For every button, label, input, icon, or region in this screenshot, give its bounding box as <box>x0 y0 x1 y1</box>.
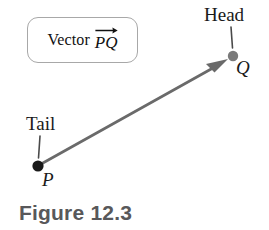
callout-vector-name: PQ <box>95 28 118 53</box>
head-label: Head <box>204 5 244 24</box>
callout-word-label: Vector <box>47 31 89 49</box>
point-p-label: P <box>42 170 54 189</box>
figure-container: Vector PQ Head Tail Q P Figure 12.3 <box>0 0 269 230</box>
vector-callout-box: Vector PQ <box>27 17 138 63</box>
figure-caption: Figure 12.3 <box>19 201 132 225</box>
vector-callout-content: Vector PQ <box>28 18 137 62</box>
tail-leader-line <box>39 136 41 158</box>
tail-label: Tail <box>26 114 55 133</box>
callout-vector-name-text: PQ <box>95 33 118 52</box>
vector-arrow-shaft <box>42 64 221 164</box>
point-q-label: Q <box>236 58 250 77</box>
head-leader-line <box>231 27 233 48</box>
right-arrow-overline-icon <box>95 27 118 34</box>
